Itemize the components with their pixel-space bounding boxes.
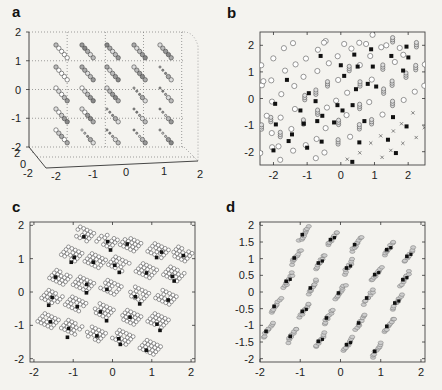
data-point — [47, 303, 51, 307]
axes-frame — [260, 32, 425, 165]
cluster — [361, 288, 375, 307]
x-tick-label: -1 — [68, 366, 78, 378]
data-point — [349, 264, 352, 267]
data-point — [401, 52, 406, 57]
data-point — [278, 115, 283, 120]
data-point — [358, 80, 362, 84]
data-point — [379, 266, 384, 270]
data-point — [180, 247, 184, 251]
data-point — [166, 298, 170, 302]
x-tick-label: 0 — [123, 166, 129, 178]
data-point — [271, 148, 275, 152]
data-point — [342, 74, 346, 78]
data-point — [112, 114, 114, 116]
data-point — [337, 291, 341, 295]
data-point — [139, 135, 141, 137]
data-point — [162, 132, 164, 134]
data-point — [125, 242, 129, 246]
data-point — [368, 53, 373, 58]
data-point — [67, 327, 71, 331]
data-point — [91, 141, 95, 145]
data-point — [91, 78, 95, 82]
data-point — [400, 122, 403, 125]
data-point — [162, 90, 164, 92]
data-point — [323, 126, 328, 131]
cluster — [297, 302, 311, 319]
x-tick-label: -2 — [269, 169, 279, 181]
data-point — [269, 78, 274, 83]
cluster — [326, 231, 340, 247]
data-point — [92, 231, 96, 235]
data-point — [412, 89, 417, 94]
x-tick-label: -2 — [51, 170, 61, 182]
data-point — [314, 88, 318, 92]
y-tick-label: 1 — [248, 253, 254, 265]
data-point — [411, 246, 416, 250]
data-point — [302, 122, 306, 126]
data-point — [384, 43, 389, 48]
data-point — [116, 56, 120, 60]
data-point — [380, 156, 383, 159]
cluster — [162, 265, 187, 283]
data-point — [392, 129, 395, 132]
data-point — [335, 103, 339, 107]
data-point — [292, 83, 297, 88]
x-tick-label: -2 — [29, 366, 39, 378]
data-point — [65, 120, 69, 124]
cluster — [40, 288, 65, 307]
data-point — [293, 62, 298, 67]
data-point — [315, 108, 319, 112]
data-point — [369, 47, 373, 51]
data-point — [113, 263, 117, 267]
data-point — [109, 111, 111, 113]
data-point — [348, 134, 353, 139]
data-point — [159, 87, 161, 89]
data-point — [165, 93, 167, 95]
data-point — [322, 150, 327, 155]
cluster — [138, 338, 163, 356]
data-point — [349, 46, 354, 51]
grid-line — [184, 147, 198, 161]
data-point — [321, 259, 324, 262]
data-point — [365, 296, 369, 300]
x-tick-label: 0 — [337, 366, 343, 378]
cluster — [382, 317, 397, 333]
data-point — [409, 253, 412, 256]
cluster — [134, 262, 159, 280]
data-point — [99, 310, 103, 314]
data-point — [397, 45, 402, 50]
x-tick-label: 1 — [371, 169, 377, 181]
data-point — [54, 275, 58, 279]
data-point — [289, 263, 294, 267]
y-tick-label: -2 — [23, 167, 33, 179]
data-point — [92, 281, 96, 285]
y-tick-label: -1 — [14, 319, 24, 331]
data-point — [159, 345, 163, 349]
data-point — [105, 233, 109, 237]
data-point — [370, 32, 375, 37]
data-point — [119, 285, 123, 289]
data-point — [373, 273, 377, 277]
data-point — [390, 79, 394, 83]
data-point — [182, 271, 186, 275]
data-point — [397, 299, 400, 302]
data-point — [49, 320, 53, 324]
data-point — [159, 108, 161, 110]
data-point — [104, 258, 108, 262]
cluster — [71, 275, 96, 295]
data-point — [405, 255, 409, 259]
data-point — [106, 240, 110, 244]
data-point — [393, 301, 397, 305]
data-point — [91, 56, 95, 60]
data-point — [143, 78, 147, 82]
data-point — [321, 338, 324, 341]
data-point — [345, 90, 350, 95]
cluster — [390, 293, 404, 311]
data-point — [57, 318, 61, 322]
cluster — [353, 313, 367, 331]
data-point — [138, 302, 142, 306]
data-point — [382, 87, 386, 91]
data-point — [109, 132, 111, 134]
data-point — [259, 63, 264, 68]
data-point — [270, 321, 275, 325]
